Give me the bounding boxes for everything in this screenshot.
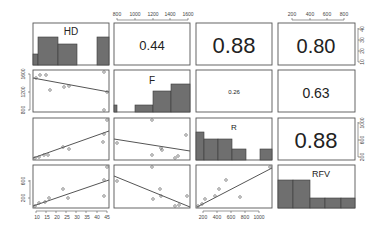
tick-label: 45 <box>104 214 110 220</box>
histogram-rfv: RFV <box>278 165 355 208</box>
corr-hd-r: 0.88 <box>196 23 272 65</box>
tick-label: 600 <box>323 11 332 17</box>
corr-value: 0.80 <box>297 35 336 57</box>
tick-label: 1200 <box>147 11 158 17</box>
pairs-matrix-chart: HD 0.44 800 1000 1200 1400 1600 0.88 0.8… <box>0 0 390 230</box>
tick-label: 400 <box>213 214 222 220</box>
corr-hd-f: 0.44 800 1000 1200 1400 1600 <box>113 11 194 65</box>
tick-label: 800 <box>241 214 250 220</box>
tick-label: 40 <box>94 214 100 220</box>
tick-label: 1600 <box>20 68 26 79</box>
scatter-f-vs-hd: 800 1200 1600 <box>20 68 109 114</box>
tick-label: 1000 <box>129 11 140 17</box>
corr-value: 0.26 <box>228 89 240 95</box>
tick-label: 40 <box>359 26 365 32</box>
tick-label: 200 <box>199 214 208 220</box>
tick-label: 20 <box>359 48 365 54</box>
tick-label: 800 <box>113 11 122 17</box>
corr-value: 0.63 <box>302 85 329 101</box>
corr-f-rfv: 0.63 <box>278 70 355 112</box>
tick-label: 15 <box>44 214 50 220</box>
tick-label: 600 <box>227 214 236 220</box>
tick-label: 200 <box>359 153 365 162</box>
tick-label: 600 <box>359 136 365 145</box>
scatter-rfv-vs-r: 200 400 600 800 1000 <box>196 165 272 220</box>
scatter-r-vs-hd <box>33 118 109 160</box>
scatter-r-vs-f <box>114 118 190 160</box>
histogram-hd: HD <box>33 23 109 65</box>
corr-r-rfv: 0.88 200 600 1000 <box>278 117 365 161</box>
corr-hd-rfv: 0.80 200 400 600 800 10 20 30 40 <box>278 11 365 65</box>
scatter-rfv-vs-hd: 200 600 10 15 20 25 30 35 40 45 <box>20 165 110 220</box>
histogram-r: R <box>196 118 272 160</box>
tick-label: 35 <box>84 214 90 220</box>
tick-label: 10 <box>359 59 365 65</box>
tick-label: 1600 <box>182 11 193 17</box>
corr-f-r: 0.26 <box>196 70 272 112</box>
var-label-hd: HD <box>64 26 78 37</box>
tick-label: 30 <box>359 37 365 43</box>
corr-value: 0.44 <box>139 38 164 53</box>
tick-label: 1400 <box>164 11 175 17</box>
tick-label: 400 <box>306 11 315 17</box>
var-label-r: R <box>231 123 237 132</box>
corr-value: 0.88 <box>295 128 338 153</box>
histogram-f: F <box>114 70 190 112</box>
tick-label: 25 <box>64 214 70 220</box>
var-label-rfv: RFV <box>312 169 330 179</box>
scatter-rfv-vs-f <box>114 165 190 208</box>
tick-label: 10 <box>34 214 40 220</box>
tick-label: 20 <box>54 214 60 220</box>
tick-label: 1200 <box>20 86 26 97</box>
tick-label: 1000 <box>253 214 264 220</box>
corr-value: 0.88 <box>213 33 256 58</box>
tick-label: 1000 <box>359 117 365 128</box>
tick-label: 800 <box>20 106 26 115</box>
tick-label: 200 <box>288 11 297 17</box>
var-label-f: F <box>149 75 155 86</box>
tick-label: 800 <box>340 11 349 17</box>
tick-label: 30 <box>74 214 80 220</box>
tick-label: 600 <box>20 177 26 186</box>
tick-label: 200 <box>20 194 26 203</box>
